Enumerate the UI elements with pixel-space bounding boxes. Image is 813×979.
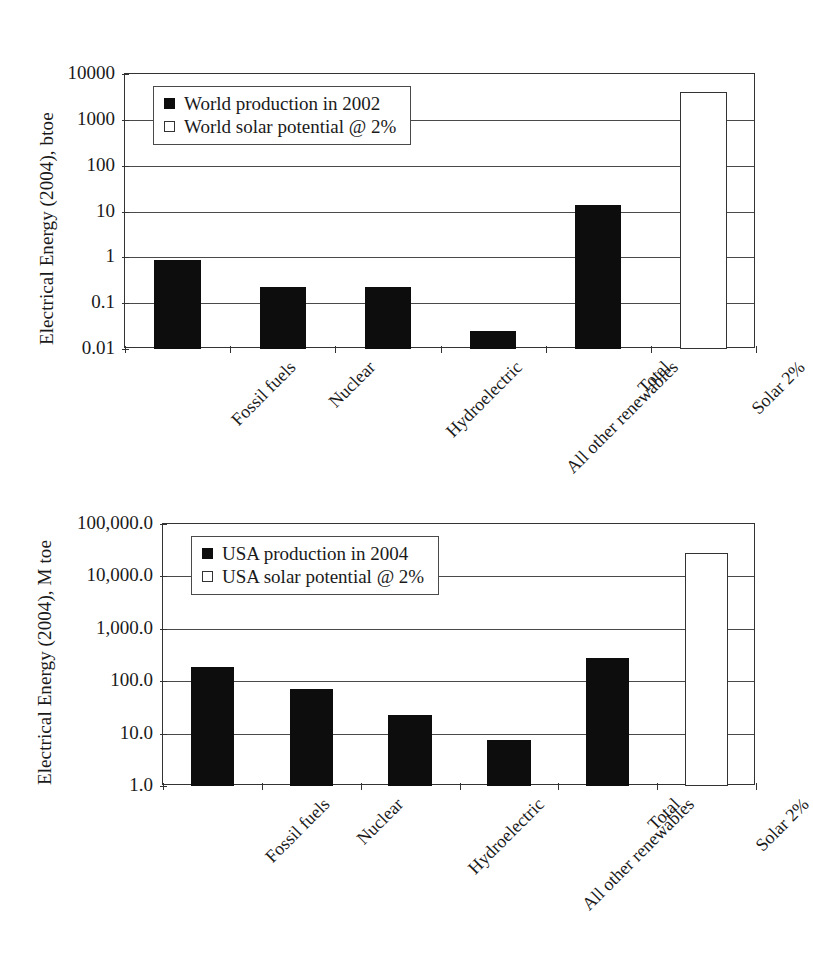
x-axis-category-label: Hydroelectric xyxy=(464,794,549,879)
y-axis-tick xyxy=(160,524,167,525)
y-axis-tick-label: 100,000.0 xyxy=(77,512,153,534)
x-axis-tick xyxy=(756,783,757,790)
x-axis-tick xyxy=(125,346,126,353)
x-axis-tick xyxy=(230,346,231,353)
x-axis-category-label: Hydroelectric xyxy=(442,357,527,442)
x-axis-tick xyxy=(651,346,652,353)
bar xyxy=(685,553,728,786)
x-axis-tick xyxy=(460,783,461,790)
legend-label: USA production in 2004 xyxy=(222,542,408,565)
plot-area-usa: USA production in 2004USA solar potentia… xyxy=(162,523,755,785)
legend-label: World production in 2002 xyxy=(184,92,380,115)
usa-energy-chart: Electrical Energy (2004), M toe USA prod… xyxy=(0,455,794,979)
x-axis-tick xyxy=(441,346,442,353)
x-axis-tick xyxy=(546,346,547,353)
x-axis-tick xyxy=(361,783,362,790)
x-axis-category-label: Nuclear xyxy=(353,794,408,849)
gridline xyxy=(125,166,754,167)
y-axis-tick-label: 0.1 xyxy=(91,291,115,313)
y-axis-tick xyxy=(122,303,129,304)
filled-square-icon xyxy=(164,98,175,109)
y-axis-tick-label: 0.01 xyxy=(82,337,115,359)
gridline xyxy=(163,681,754,682)
x-axis-category-label: Fossil fuels xyxy=(262,794,335,867)
x-axis-category-label: Solar 2% xyxy=(751,794,813,856)
y-axis-tick xyxy=(122,257,129,258)
x-axis-category-label: Nuclear xyxy=(324,357,379,412)
x-axis-tick xyxy=(558,783,559,790)
legend-item: USA solar potential @ 2% xyxy=(202,565,424,588)
gridline xyxy=(163,734,754,735)
y-axis-tick xyxy=(122,120,129,121)
y-axis-tick xyxy=(160,734,167,735)
gridline xyxy=(163,629,754,630)
bar xyxy=(260,287,306,349)
legend-label: World solar potential @ 2% xyxy=(184,115,396,138)
x-axis-category-label: Solar 2% xyxy=(748,357,810,419)
x-axis-tick xyxy=(657,783,658,790)
x-axis-tick xyxy=(756,346,757,353)
legend-label: USA solar potential @ 2% xyxy=(222,565,424,588)
y-axis-tick xyxy=(160,576,167,577)
legend-item: World solar potential @ 2% xyxy=(164,115,396,138)
y-axis-tick-label: 1.0 xyxy=(129,774,153,796)
x-axis-tick xyxy=(262,783,263,790)
bar xyxy=(575,205,621,349)
legend-item: World production in 2002 xyxy=(164,92,396,115)
y-axis-tick-label: 1000 xyxy=(77,108,115,130)
hollow-square-icon xyxy=(164,121,175,132)
y-axis-title-usa: Electrical Energy (2004), M toe xyxy=(34,540,56,785)
y-axis-tick xyxy=(122,212,129,213)
y-axis-tick-label: 10 xyxy=(96,200,115,222)
y-axis-tick xyxy=(160,681,167,682)
y-axis-tick xyxy=(160,629,167,630)
gridline xyxy=(125,212,754,213)
y-axis-tick-label: 10.0 xyxy=(120,722,153,744)
gridline xyxy=(125,257,754,258)
y-axis-tick-label: 10000 xyxy=(68,62,116,84)
gridline xyxy=(125,303,754,304)
bar xyxy=(365,287,411,349)
chart-legend: World production in 2002World solar pote… xyxy=(153,86,411,145)
bar xyxy=(290,689,333,786)
y-axis-tick-label: 100.0 xyxy=(110,669,153,691)
bar xyxy=(586,658,629,786)
bar xyxy=(680,92,726,349)
y-axis-tick-label: 1 xyxy=(106,245,116,267)
x-axis-tick xyxy=(335,346,336,353)
y-axis-tick-label: 100 xyxy=(87,154,116,176)
y-axis-title-world: Electrical Energy (2004), btoe xyxy=(36,112,58,345)
y-axis-tick xyxy=(122,166,129,167)
chart-legend: USA production in 2004USA solar potentia… xyxy=(191,536,439,595)
y-axis-tick xyxy=(122,74,129,75)
bar xyxy=(388,715,431,786)
bar xyxy=(487,740,530,786)
bar xyxy=(154,260,200,349)
x-axis-tick xyxy=(163,783,164,790)
y-axis-tick-label: 10,000.0 xyxy=(87,564,154,586)
bar xyxy=(191,667,234,786)
plot-area-world: World production in 2002World solar pote… xyxy=(124,73,755,348)
y-axis-tick-label: 1,000.0 xyxy=(96,617,153,639)
hollow-square-icon xyxy=(202,571,213,582)
world-energy-chart: Electrical Energy (2004), btoe World pro… xyxy=(0,0,794,480)
bar xyxy=(470,331,516,349)
filled-square-icon xyxy=(202,548,213,559)
x-axis-category-label: Fossil fuels xyxy=(227,357,300,430)
legend-item: USA production in 2004 xyxy=(202,542,424,565)
